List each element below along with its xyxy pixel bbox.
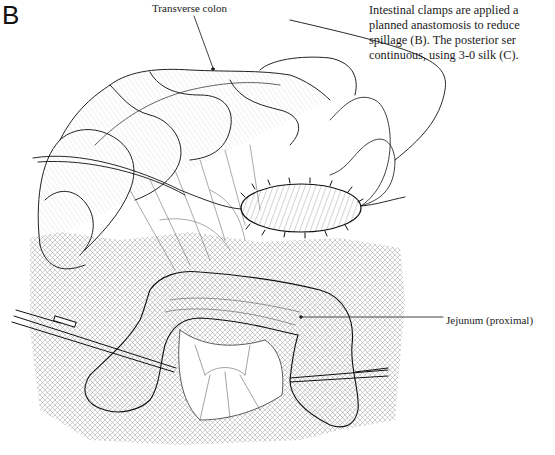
surgical-illustration (0, 0, 555, 455)
leader-line-transverse-colon (194, 16, 214, 70)
anastomosis-suture-line (241, 178, 363, 238)
